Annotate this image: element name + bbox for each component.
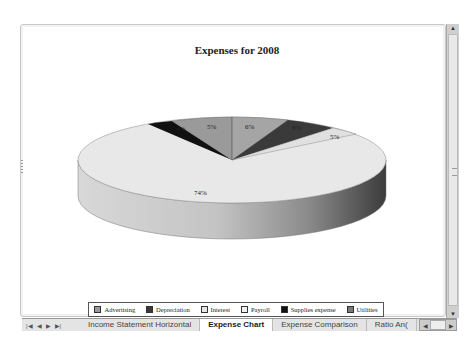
chart-legend: Advertising Depreciation Interest Payrol… xyxy=(88,302,384,317)
legend-item-advertising: Advertising xyxy=(94,306,135,313)
tab-ratio-analysis[interactable]: Ratio An( xyxy=(367,319,417,331)
scroll-up-icon[interactable]: ▲ xyxy=(447,24,459,32)
legend-label: Advertising xyxy=(104,306,135,313)
legend-item-supplies: Supplies expense xyxy=(281,306,336,313)
legend-label: Interest xyxy=(211,306,231,313)
legend-label: Payroll xyxy=(251,306,270,313)
last-sheet-icon[interactable]: ▶| xyxy=(55,322,62,329)
sheet-nav: |◀ ◀ ▶ ▶| xyxy=(22,322,80,329)
grip-icon xyxy=(452,168,457,176)
legend-item-utilities: Utilities xyxy=(347,306,378,313)
pie-chart: 4% 5% 6% 6% 5% 74% xyxy=(0,0,474,350)
first-sheet-icon[interactable]: |◀ xyxy=(26,322,33,329)
tab-expense-chart[interactable]: Expense Chart xyxy=(200,319,273,331)
label-advertising: 5% xyxy=(207,123,217,131)
swatch-icon xyxy=(241,306,248,313)
legend-item-payroll: Payroll xyxy=(241,306,270,313)
legend-item-depreciation: Depreciation xyxy=(146,306,190,313)
swatch-icon xyxy=(281,306,288,313)
legend-label: Utilities xyxy=(357,306,378,313)
sheet-tab-bar: |◀ ◀ ▶ ▶| Income Statement Horizontal Ex… xyxy=(22,318,457,331)
swatch-icon xyxy=(201,306,208,313)
label-payroll: 74% xyxy=(194,189,207,197)
label-supplies: 4% xyxy=(176,125,186,133)
legend-item-interest: Interest xyxy=(201,306,231,313)
label-depreciation: 6% xyxy=(292,124,302,132)
legend-label: Supplies expense xyxy=(291,306,336,313)
horizontal-scrollbar[interactable]: ◀ ▶ xyxy=(419,319,457,331)
legend-label: Depreciation xyxy=(156,306,190,313)
swatch-icon xyxy=(146,306,153,313)
swatch-icon xyxy=(94,306,101,313)
scroll-thumb[interactable] xyxy=(448,34,458,306)
vertical-scrollbar[interactable]: ▲ ▼ xyxy=(446,24,459,318)
swatch-icon xyxy=(347,306,354,313)
hscroll-thumb[interactable] xyxy=(430,320,446,330)
label-interest: 5% xyxy=(330,133,340,141)
tab-expense-comparison[interactable]: Expense Comparison xyxy=(273,319,366,331)
scroll-right-icon[interactable]: ▶ xyxy=(446,322,456,329)
next-sheet-icon[interactable]: ▶ xyxy=(46,322,51,329)
scroll-down-icon[interactable]: ▼ xyxy=(447,310,459,318)
label-utilities: 6% xyxy=(245,123,255,131)
scroll-left-icon[interactable]: ◀ xyxy=(420,322,430,329)
tab-income-statement-horizontal[interactable]: Income Statement Horizontal xyxy=(80,319,200,331)
prev-sheet-icon[interactable]: ◀ xyxy=(37,322,42,329)
